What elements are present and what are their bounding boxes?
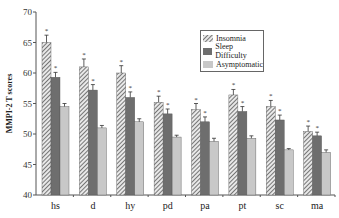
x-tick-label: ma (311, 200, 324, 211)
x-tick-label: hy (125, 200, 135, 211)
bar (247, 138, 256, 195)
x-tick-label: sc (276, 200, 285, 211)
x-tick-label: hs (51, 200, 60, 211)
significance-marker: * (129, 84, 133, 92)
bar (154, 102, 163, 195)
significance-marker: * (166, 101, 170, 109)
x-tick-label: pt (238, 200, 246, 211)
bar (42, 43, 51, 196)
bar (117, 73, 126, 195)
significance-marker: * (306, 118, 310, 126)
bar-chart: 40455055606570MMPI-2 T scoreshsdhypdpapt… (0, 0, 339, 218)
bar (163, 114, 172, 195)
bar (88, 90, 97, 195)
significance-marker: * (232, 81, 236, 89)
y-tick-label: 65 (23, 38, 33, 48)
bar (126, 97, 135, 195)
y-tick-label: 70 (23, 7, 33, 17)
bar (135, 122, 144, 195)
hatched-swatch-icon (203, 35, 213, 42)
legend-item-asymptomatic: Asymptomatic (203, 58, 263, 70)
light-swatch-icon (203, 61, 213, 68)
x-tick-label: d (90, 200, 95, 211)
bar (313, 136, 322, 195)
significance-marker: * (278, 107, 282, 115)
significance-marker: * (157, 88, 161, 96)
y-tick-label: 60 (23, 68, 33, 78)
bar (304, 132, 313, 195)
significance-marker: * (120, 58, 124, 66)
bar (172, 137, 181, 195)
significance-marker: * (45, 27, 49, 35)
x-tick-label: pd (163, 200, 173, 211)
bar (275, 120, 284, 195)
significance-marker: * (269, 92, 273, 100)
significance-marker: * (54, 64, 58, 72)
bar (322, 152, 331, 195)
y-tick-label: 55 (23, 99, 33, 109)
bar (79, 67, 88, 195)
significance-marker: * (194, 96, 198, 104)
significance-marker: * (315, 124, 319, 132)
bar (210, 141, 219, 195)
bar (266, 107, 275, 195)
bar (284, 150, 293, 195)
y-tick-label: 50 (23, 129, 33, 139)
bar (192, 110, 201, 195)
bar (97, 128, 106, 195)
bar (60, 107, 69, 195)
significance-marker: * (203, 109, 207, 117)
legend: Insomnia Sleep Difficulty Asymptomatic (200, 30, 264, 72)
y-axis-label: MMPI-2 T scores (5, 74, 14, 134)
legend-item-sleep-difficulty: Sleep Difficulty (203, 45, 263, 57)
significance-marker: * (241, 99, 245, 107)
y-tick-label: 40 (23, 190, 33, 200)
significance-marker: * (91, 77, 95, 85)
dark-swatch-icon (203, 48, 212, 55)
bar (201, 122, 210, 195)
bar (238, 111, 247, 195)
bar (229, 95, 238, 195)
y-tick-label: 45 (23, 160, 33, 170)
significance-marker: * (82, 51, 86, 59)
x-tick-label: pa (200, 200, 210, 211)
bar (51, 77, 60, 195)
